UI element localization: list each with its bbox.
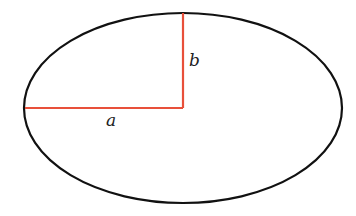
semi-major-axis-label: a <box>106 110 116 130</box>
ellipse-diagram: a b <box>0 0 356 216</box>
semi-minor-axis-label: b <box>189 50 200 70</box>
